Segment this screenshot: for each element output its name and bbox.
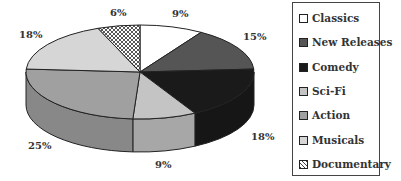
legend-item-documentary: Documentary [299,157,391,171]
legend-item-classics: Classics [299,11,359,25]
slice-label-classics: 9% [172,8,189,19]
legend-item-comedy: Comedy [299,60,359,74]
slice-label-musicals: 18% [19,29,43,40]
legend-label: Sci-Fi [312,85,346,97]
swatch-classics-icon [299,14,308,23]
slice-label-new-releases: 15% [243,31,267,42]
legend-item-new-releases: New Releases [299,35,392,49]
slice-label-sci-fi: 9% [155,159,172,170]
swatch-musicals-icon [299,136,308,145]
legend-item-musicals: Musicals [299,133,364,147]
swatch-comedy-icon [299,63,308,72]
swatch-sci-fi-icon [299,87,308,96]
pie-top [26,25,254,119]
legend-label: Documentary [312,158,391,170]
legend-label: Action [312,109,350,121]
legend-label: New Releases [312,36,392,48]
slice-label-action: 25% [28,140,52,151]
legend-item-sci-fi: Sci-Fi [299,84,346,98]
swatch-action-icon [299,111,308,120]
swatch-documentary-icon [299,160,308,169]
chart-legend: Classics New Releases Comedy Sci-Fi Acti… [292,2,380,176]
legend-label: Comedy [312,61,359,73]
legend-label: Musicals [312,134,364,146]
pie-chart: 9% 15% 18% 9% 25% 18% 6% [0,0,290,181]
swatch-new-releases-icon [299,38,308,47]
slice-label-comedy: 18% [251,131,275,142]
slice-label-documentary: 6% [110,7,127,18]
legend-label: Classics [312,12,359,24]
legend-item-action: Action [299,108,350,122]
